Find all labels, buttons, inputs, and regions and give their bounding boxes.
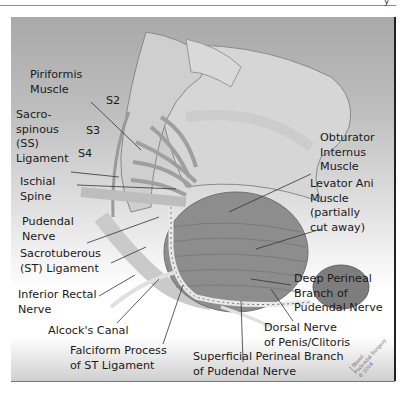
levator-ani-muscle	[164, 192, 308, 312]
label-pudendal-nerve: Pudendal Nerve	[22, 215, 74, 244]
label-sacrotuberous-ligament: Sacrotuberous (ST) Ligament	[20, 247, 101, 276]
sacrospinous-ligament	[81, 192, 186, 202]
figure-bottom-border	[11, 381, 395, 382]
label-dorsal-nerve: Dorsal Nerve of Penis/Clitoris	[264, 321, 350, 350]
label-levator-ani: Levator Ani Muscle (partially cut away)	[310, 177, 374, 235]
label-alcocks-canal: Alcock's Canal	[48, 324, 129, 339]
label-ischial-spine: Ischial Spine	[20, 175, 55, 204]
figure-right-border	[394, 17, 396, 381]
top-rule	[0, 5, 396, 6]
label-s3: S3	[86, 124, 100, 139]
label-sacrospinous-ligament: Sacro- spinous (SS) Ligament	[16, 108, 69, 166]
header-corner-glyph: y	[384, 0, 389, 6]
label-piriformis-muscle: Piriformis Muscle	[30, 68, 82, 97]
label-deep-perineal-branch: Deep Perineal Branch of Pudendal Nerve	[294, 272, 383, 316]
label-s4: S4	[78, 147, 92, 162]
label-s2: S2	[106, 94, 120, 109]
label-inferior-rectal-nerve: Inferior Rectal Nerve	[18, 288, 97, 317]
label-falciform-process: Falciform Process of ST Ligament	[70, 344, 167, 373]
label-obturator-internus: Obturator Internus Muscle	[320, 131, 375, 175]
anatomy-figure: Piriformis Muscle S2 S3 S4 Sacro- spinou…	[11, 17, 395, 381]
label-superficial-perineal-branch: Superficial Perineal Branch of Pudendal …	[193, 350, 344, 379]
